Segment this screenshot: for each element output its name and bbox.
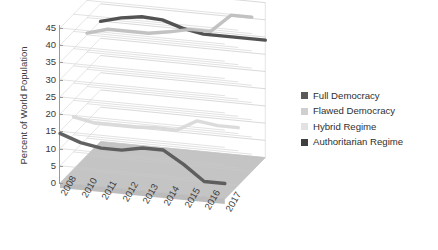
chart-container: Percent of World Population 454035302520… [0, 0, 438, 250]
legend-swatch-icon [301, 139, 308, 146]
legend-item-authoritarian-regime[interactable]: Authoritarian Regime [301, 135, 436, 151]
x-tick-2012: 2012 [120, 180, 140, 204]
x-tick-2014: 2014 [161, 184, 181, 208]
y-tick-mark-35 [59, 62, 63, 63]
y-tick-mark-15 [59, 131, 63, 132]
y-tick-mark-45 [59, 28, 63, 29]
y-tick-mark-20 [59, 114, 63, 115]
legend-item-full-democracy[interactable]: Full Democracy [301, 88, 436, 104]
legend-item-hybrid-regime[interactable]: Hybrid Regime [301, 119, 436, 135]
y-tick-mark-30 [59, 80, 63, 81]
y-tick-mark-40 [59, 45, 63, 46]
y-tick-mark-25 [59, 97, 63, 98]
x-tick-2010: 2010 [79, 176, 99, 200]
legend-item-label: Flawed Democracy [313, 106, 395, 116]
legend-swatch-icon [301, 92, 308, 99]
x-tick-2011: 2011 [99, 178, 119, 201]
legend-item-label: Authoritarian Regime [313, 137, 403, 147]
x-tick-2016: 2016 [202, 188, 222, 212]
x-tick-2015: 2015 [182, 186, 202, 210]
y-tick-mark-0 [59, 183, 63, 184]
y-tick-mark-10 [59, 149, 63, 150]
legend-item-flawed-democracy[interactable]: Flawed Democracy [301, 104, 436, 120]
x-tick-2008: 2008 [58, 174, 78, 198]
y-tick-mark-5 [59, 166, 63, 167]
legend-swatch-icon [301, 108, 308, 115]
legend-item-label: Full Democracy [313, 91, 380, 101]
legend-item-label: Hybrid Regime [313, 122, 376, 132]
x-tick-2013: 2013 [140, 182, 160, 206]
chart-legend: Full DemocracyFlawed DemocracyHybrid Reg… [301, 88, 436, 150]
x-tick-2017: 2017 [223, 190, 243, 214]
legend-swatch-icon [301, 123, 308, 130]
